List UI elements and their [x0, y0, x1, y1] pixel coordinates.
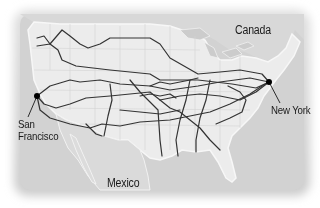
- san-francisco-label-line1: San: [18, 118, 58, 130]
- map-figure: Canada Mexico New York San Francisco: [0, 0, 320, 208]
- san-francisco-label-line2: Francisco: [18, 130, 58, 142]
- new-york-label: New York: [271, 104, 310, 116]
- san-francisco-label: San Francisco: [18, 118, 58, 142]
- mexico-label: Mexico: [107, 177, 139, 189]
- canada-label: Canada: [235, 24, 271, 36]
